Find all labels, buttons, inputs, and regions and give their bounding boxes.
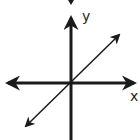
coordinate-diagram: y x xyxy=(0,0,140,140)
x-axis-label: x xyxy=(130,88,138,104)
top-edge-arrow-icon xyxy=(68,0,74,5)
y-axis-label: y xyxy=(82,8,90,24)
